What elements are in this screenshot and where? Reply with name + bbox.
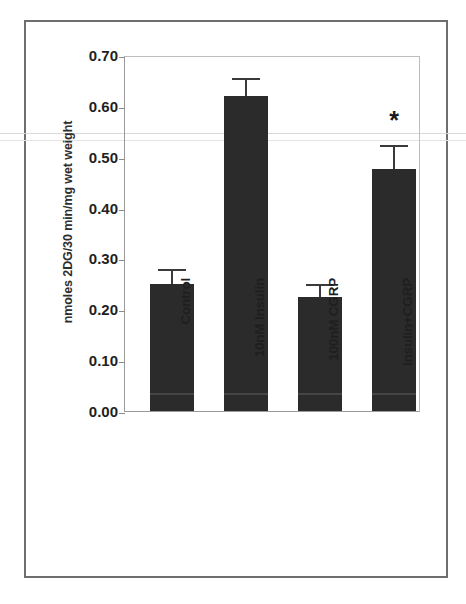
error-bar-cap xyxy=(232,78,260,80)
x-category-label: Control xyxy=(178,278,193,418)
significance-marker: * xyxy=(372,108,416,133)
error-bar-cap xyxy=(158,269,186,271)
y-tick-label: 0.00 xyxy=(66,404,118,419)
y-tick-label: 0.50 xyxy=(66,150,118,165)
error-bar-line xyxy=(245,80,247,95)
error-bar-line xyxy=(171,271,173,284)
y-axis-tick-mark xyxy=(119,210,125,211)
y-tick-label: 0.60 xyxy=(66,99,118,114)
y-tick-label: 0.20 xyxy=(66,302,118,317)
bar-series: * xyxy=(125,57,419,411)
plot-area: * xyxy=(124,56,420,412)
y-axis-tick-mark xyxy=(119,108,125,109)
y-axis-tick-mark xyxy=(119,159,125,160)
y-tick-label: 0.10 xyxy=(66,353,118,368)
error-bar-line xyxy=(319,286,321,296)
y-tick-label: 0.30 xyxy=(66,251,118,266)
y-axis-tick-mark xyxy=(119,362,125,363)
error-bar-cap xyxy=(380,145,408,147)
y-axis-tick-mark xyxy=(119,57,125,58)
x-category-label: 100nM CGRP xyxy=(326,278,341,418)
y-tick-label: 0.70 xyxy=(66,48,118,63)
y-axis-tick-mark xyxy=(119,311,125,312)
y-axis-tick-mark xyxy=(119,413,125,414)
y-axis-tick-labels: 0.000.100.200.300.400.500.600.70 xyxy=(60,0,118,604)
y-axis-tick-mark xyxy=(119,260,125,261)
x-category-label: 10nM Insulin xyxy=(252,278,267,418)
error-bar-line xyxy=(393,147,395,170)
y-tick-label: 0.40 xyxy=(66,201,118,216)
x-category-label: Insulin+CGRP xyxy=(400,278,415,418)
